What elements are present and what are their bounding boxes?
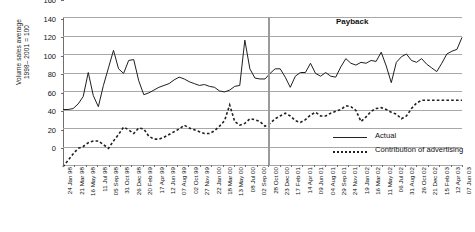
y-tick-label: 120	[43, 33, 56, 42]
x-tick-label: 19 Jan 02	[363, 167, 370, 194]
x-tick-label: 20 Feb 99	[146, 167, 153, 195]
series-line-actual	[63, 37, 462, 109]
legend-item-actual: Actual	[333, 131, 475, 145]
x-tick-label: 26 Dec 98	[135, 167, 142, 195]
x-tick-label: 07 Aug 99	[180, 167, 187, 195]
x-tick-label: 21 Mar 98	[78, 167, 85, 195]
x-tick-mark	[416, 165, 417, 167]
x-tick-label: 08 Jul 00	[249, 167, 256, 192]
x-tick-label: 23 Dec 00	[283, 167, 290, 195]
x-tick-mark	[382, 165, 383, 167]
legend-label-actual: Actual	[375, 131, 396, 140]
x-tick-label: 04 Aug 01	[329, 167, 336, 195]
x-tick-mark	[154, 165, 155, 167]
x-tick-label: 02 Oct 99	[192, 167, 199, 194]
x-tick-mark	[439, 165, 440, 167]
x-tick-label: 26 Oct 02	[420, 167, 427, 194]
x-axis-labels: 24 Jan 9821 Mar 9816 May 9811 Jul 9805 S…	[63, 167, 462, 229]
x-tick-mark	[371, 165, 372, 167]
payback-marker-line	[268, 17, 270, 165]
x-tick-label: 15 Feb 03	[443, 167, 450, 195]
x-tick-mark	[394, 165, 395, 167]
x-tick-label: 12 Apr 03	[454, 167, 461, 194]
x-tick-label: 18 Mar 00	[226, 167, 233, 195]
x-tick-label: 24 Jan 98	[66, 167, 73, 194]
x-tick-mark	[302, 165, 303, 167]
x-tick-mark	[223, 165, 224, 167]
y-tick-label: 100	[43, 51, 56, 60]
y-tick-label: 0	[52, 144, 56, 153]
x-tick-mark	[63, 165, 64, 167]
x-tick-mark	[314, 165, 315, 167]
y-tick-label: 80	[48, 70, 56, 79]
x-tick-mark	[245, 165, 246, 167]
legend-item-contribution: Contribution of advertising	[333, 145, 475, 159]
x-tick-mark	[359, 165, 360, 167]
chart-container: Volume sales average 1998– 2001 = 100 02…	[0, 0, 475, 232]
legend-swatch-dotted-line-icon	[333, 151, 367, 153]
legend-label-contribution: Contribution of advertising	[375, 145, 463, 154]
x-tick-label: 11 Jul 98	[101, 167, 108, 192]
x-tick-label: 07 Jun 03	[465, 167, 472, 194]
x-tick-label: 17 Feb 01	[294, 167, 301, 195]
y-axis-ticks: 020406080100120140160	[0, 0, 61, 148]
x-tick-label: 17 Apr 99	[158, 167, 165, 194]
x-tick-mark	[143, 165, 144, 167]
payback-annotation-label: Payback	[336, 17, 368, 26]
x-tick-label: 02 Sep 00	[260, 167, 267, 195]
x-tick-label: 05 Sep 98	[112, 167, 119, 195]
x-tick-label: 16 Mar 02	[374, 167, 381, 195]
x-tick-mark	[325, 165, 326, 167]
x-tick-mark	[131, 165, 132, 167]
legend-swatch-solid-line-icon	[333, 137, 367, 138]
x-tick-label: 31 Aug 02	[408, 167, 415, 195]
x-tick-mark	[120, 165, 121, 167]
x-tick-mark	[166, 165, 167, 167]
x-tick-label: 22 Jan 00	[215, 167, 222, 194]
x-tick-mark	[177, 165, 178, 167]
x-tick-label: 21 Dec 02	[431, 167, 438, 195]
x-tick-label: 09 Jun 01	[317, 167, 324, 194]
x-tick-label: 12 Jun 99	[169, 167, 176, 194]
x-tick-label: 31 Oct 98	[123, 167, 130, 194]
x-tick-label: 14 Apr 01	[306, 167, 313, 194]
x-tick-mark	[86, 165, 87, 167]
x-tick-mark	[337, 165, 338, 167]
x-tick-mark	[462, 165, 463, 167]
chart-legend: Actual Contribution of advertising	[333, 131, 475, 159]
x-tick-mark	[188, 165, 189, 167]
y-tick-label: 160	[43, 0, 56, 5]
x-tick-label: 11 May 02	[386, 167, 393, 195]
x-tick-mark	[291, 165, 292, 167]
gridline	[63, 165, 462, 166]
x-tick-label: 16 May 98	[89, 167, 96, 196]
x-tick-mark	[234, 165, 235, 167]
x-tick-label: 13 May 00	[237, 167, 244, 196]
x-tick-mark	[405, 165, 406, 167]
x-tick-label: 06 Jul 02	[397, 167, 404, 192]
x-tick-mark	[211, 165, 212, 167]
x-tick-mark	[109, 165, 110, 167]
x-tick-mark	[348, 165, 349, 167]
y-tick-label: 140	[43, 14, 56, 23]
x-tick-mark	[451, 165, 452, 167]
x-tick-label: 24 Nov 01	[351, 167, 358, 195]
x-tick-mark	[257, 165, 258, 167]
x-tick-mark	[428, 165, 429, 167]
x-tick-label: 27 Nov 99	[203, 167, 210, 195]
y-tick-label: 60	[48, 88, 56, 97]
x-tick-mark	[280, 165, 281, 167]
x-tick-mark	[200, 165, 201, 167]
y-tick-mark	[61, 0, 64, 1]
x-tick-mark	[74, 165, 75, 167]
x-tick-mark	[268, 165, 269, 167]
y-tick-label: 40	[48, 107, 56, 116]
y-tick-label: 20	[48, 125, 56, 134]
x-tick-label: 28 Oct 00	[272, 167, 279, 194]
x-tick-mark	[97, 165, 98, 167]
x-tick-label: 29 Sep 01	[340, 167, 347, 195]
